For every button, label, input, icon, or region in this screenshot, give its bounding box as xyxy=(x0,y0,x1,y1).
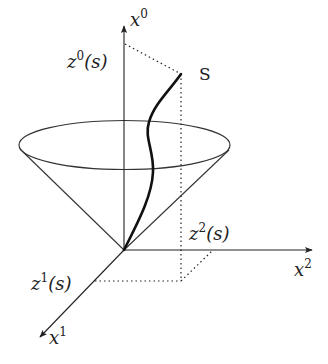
x0-axis-label: x0 xyxy=(130,7,148,30)
z1-projection-label: z1(s) xyxy=(30,271,71,294)
x1-axis-label: x1 xyxy=(49,325,67,348)
z2-projection-line xyxy=(181,251,212,281)
z2-projection-label: z2(s) xyxy=(188,221,229,244)
cone-left-edge xyxy=(20,149,124,250)
curve-label-s: S xyxy=(199,64,211,84)
z0-projection-line xyxy=(125,44,181,74)
light-cone-diagram: x0 z0(s) S z2(s) x2 z1(s) x1 xyxy=(0,0,328,364)
z0-projection-label: z0(s) xyxy=(66,49,107,72)
x2-axis-label: x2 xyxy=(294,257,312,280)
